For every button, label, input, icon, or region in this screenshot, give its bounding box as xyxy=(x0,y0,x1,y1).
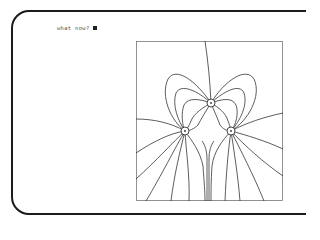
field-lines-graphic xyxy=(136,41,283,201)
field-line-plot xyxy=(136,41,283,201)
command-prompt[interactable]: what now? xyxy=(57,25,97,31)
prompt-text: what now? xyxy=(57,25,90,31)
block-cursor-icon xyxy=(93,26,97,30)
